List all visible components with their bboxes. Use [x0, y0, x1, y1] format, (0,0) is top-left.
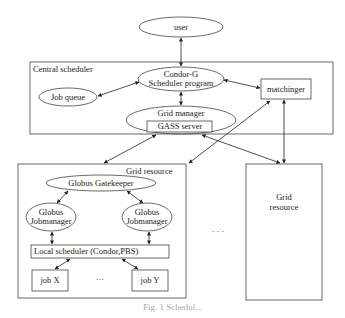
- edge-localscheduler-joby: [122, 259, 138, 269]
- diagram-canvas: [0, 0, 345, 318]
- grid-resource-main-label: Grid resource: [126, 167, 173, 176]
- central-scheduler-label: Central scheduler: [33, 65, 93, 74]
- edge-jobqueue-condor: [98, 82, 139, 96]
- user-label: user: [174, 23, 188, 32]
- local-scheduler-label: Local scheduler (Condor,PBS): [34, 247, 138, 256]
- edge-gatekeeper-jobmanager-right: [127, 191, 143, 203]
- grid-resource-other-label-2: resource: [270, 203, 299, 212]
- job-queue-label: Job queue: [51, 93, 85, 102]
- job-ellipsis: ···: [96, 275, 105, 284]
- matchinger-label: matchinger: [267, 85, 305, 94]
- job-y-label: job Y: [141, 276, 160, 285]
- figure-caption: Fig. 1 Schedul...: [0, 302, 345, 312]
- grid-resource-other-box: [246, 164, 322, 300]
- gass-server-label: GASS server: [158, 122, 203, 131]
- edge-localscheduler-jobx: [55, 259, 70, 269]
- condor-g-label-2: Scheduler program: [149, 79, 214, 88]
- edge-condor-matchinger: [224, 80, 260, 88]
- grid-resource-other-label-1: Grid: [276, 193, 292, 202]
- edge-gass-gridresource-other: [202, 135, 280, 163]
- resources-ellipsis: · · ·: [212, 227, 225, 236]
- grid-manager-label: Grid manager: [158, 109, 205, 118]
- jobmanager-left-label-2: Jobmanager: [30, 217, 71, 226]
- globus-gatekeeper-label: Globus Gatekeeper: [68, 179, 133, 188]
- jobmanager-right-label-2: Jobmanager: [126, 217, 167, 226]
- edge-gatekeeper-jobmanager-left: [57, 191, 68, 203]
- edge-gass-gridresource: [104, 135, 156, 163]
- job-x-label: job X: [40, 276, 59, 285]
